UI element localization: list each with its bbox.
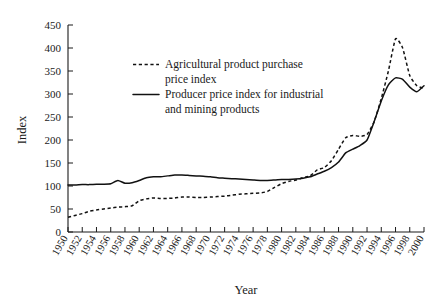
y-tick-label: 200: [45, 134, 62, 146]
legend-label: Producer price index for industrial: [165, 88, 323, 101]
y-tick-label: 450: [45, 19, 62, 31]
x-axis-title: Year: [234, 283, 258, 297]
y-tick-label: 50: [50, 203, 62, 215]
legend: Agricultural product purchaseprice index…: [133, 58, 323, 116]
y-tick-label: 350: [45, 65, 62, 77]
legend-label-continued: and mining products: [165, 103, 260, 116]
legend-label-continued: price index: [165, 73, 217, 86]
y-tick-label: 400: [45, 42, 62, 54]
y-tick-label: 250: [45, 111, 62, 123]
legend-label: Agricultural product purchase: [165, 58, 303, 71]
y-tick-label: 150: [45, 157, 62, 169]
y-axis: 050100150200250300350400450: [45, 19, 74, 238]
y-tick-label: 100: [45, 180, 62, 192]
price-index-line-chart: 050100150200250300350400450 195019521954…: [0, 0, 434, 304]
chart-container: 050100150200250300350400450 195019521954…: [0, 0, 434, 304]
x-tick-label: 2000: [406, 234, 426, 258]
y-axis-title: Index: [15, 115, 29, 144]
y-tick-label: 300: [45, 88, 62, 100]
